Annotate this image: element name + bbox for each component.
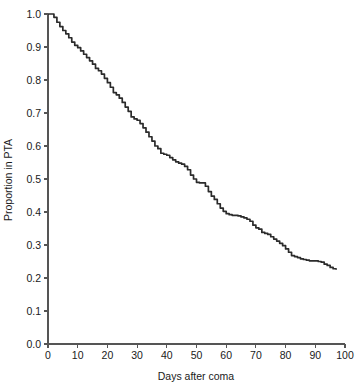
- y-tick-label: 0.3: [26, 239, 41, 251]
- x-tick-label: 0: [45, 349, 51, 361]
- km-survival-chart: 0102030405060708090100 0.00.10.20.30.40.…: [0, 0, 360, 390]
- x-tick-label: 100: [336, 349, 354, 361]
- x-tick-label: 10: [72, 349, 84, 361]
- y-axis-title: Proportion in PTA: [2, 139, 14, 221]
- x-tick-label: 60: [220, 349, 232, 361]
- x-tick-label: 80: [280, 349, 292, 361]
- x-tick-label: 20: [102, 349, 114, 361]
- y-tick-label: 0.4: [26, 206, 41, 218]
- chart-background: [0, 0, 360, 390]
- y-tick-label: 0.5: [26, 173, 41, 185]
- y-tick-label: 0.1: [26, 305, 41, 317]
- chart-figure: 0102030405060708090100 0.00.10.20.30.40.…: [0, 0, 360, 390]
- x-tick-label: 40: [161, 349, 173, 361]
- x-tick-label: 70: [250, 349, 262, 361]
- y-tick-label: 1.0: [26, 8, 41, 20]
- y-tick-label: 0.7: [26, 107, 41, 119]
- y-tick-label: 0.2: [26, 272, 41, 284]
- x-tick-label: 30: [131, 349, 143, 361]
- y-tick-label: 0.6: [26, 140, 41, 152]
- x-axis-title: Days after coma: [158, 370, 235, 382]
- y-tick-label: 0.9: [26, 41, 41, 53]
- y-tick-label: 0.8: [26, 74, 41, 86]
- y-tick-label: 0.0: [26, 338, 41, 350]
- x-tick-label: 90: [309, 349, 321, 361]
- x-tick-label: 50: [191, 349, 203, 361]
